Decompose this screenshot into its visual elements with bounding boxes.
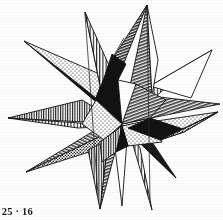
figure-container: e 25 · 16 [0, 0, 223, 220]
stellated-polyhedron-illustration [0, 0, 223, 220]
figure-caption: e 25 · 16 [0, 206, 33, 218]
